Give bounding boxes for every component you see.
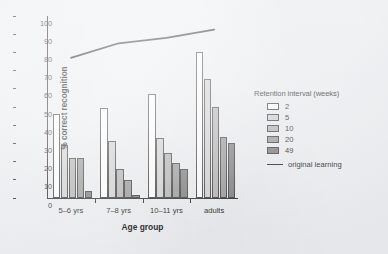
legend-title: Retention interval (weeks) bbox=[254, 89, 386, 98]
original-learning-line bbox=[47, 16, 238, 199]
legend-item: 20 bbox=[254, 134, 386, 145]
legend-item: 5 bbox=[254, 112, 386, 123]
y-axis-tick-mark bbox=[13, 161, 16, 162]
x-axis-title: Age group bbox=[47, 222, 238, 232]
chart-legend: Retention interval (weeks) 25102049 orig… bbox=[254, 89, 386, 170]
plot-area: 0102030405060708090100 5–6 yrs7–8 yrs10–… bbox=[47, 16, 237, 199]
y-axis-tick-mark bbox=[13, 70, 16, 71]
y-axis-tick-mark bbox=[13, 198, 16, 199]
legend-swatch-icon bbox=[267, 147, 279, 154]
x-axis-category-label: 10–11 yrs bbox=[150, 206, 183, 215]
legend-item: 10 bbox=[254, 123, 386, 134]
legend-swatch-icon bbox=[267, 125, 279, 132]
x-axis-tick-mark bbox=[190, 199, 191, 203]
y-axis-tick-mark bbox=[13, 179, 16, 180]
x-axis-tick-mark bbox=[143, 199, 144, 203]
legend-item-label: 10 bbox=[285, 124, 293, 133]
legend-item: 49 bbox=[254, 145, 386, 156]
x-axis-category-label: adults bbox=[204, 206, 224, 215]
legend-item-original-learning: original learning bbox=[254, 159, 386, 170]
legend-item-label: 20 bbox=[285, 135, 293, 144]
legend-swatch-icon bbox=[267, 136, 279, 143]
legend-item-label: 2 bbox=[285, 102, 289, 111]
y-axis-tick-mark bbox=[13, 52, 16, 53]
y-axis-tick-mark bbox=[13, 88, 16, 89]
x-axis-category-label: 7–8 yrs bbox=[106, 206, 131, 215]
legend-item: 2 bbox=[254, 101, 386, 112]
y-axis-tick-mark bbox=[13, 107, 16, 108]
y-axis-tick-mark bbox=[13, 125, 16, 126]
line-swatch-icon bbox=[267, 164, 283, 165]
chart-figure: 0102030405060708090100 5–6 yrs7–8 yrs10–… bbox=[0, 0, 388, 254]
x-axis-tick-mark bbox=[95, 199, 96, 203]
legend-swatch-icon bbox=[267, 103, 279, 110]
y-axis-tick-mark bbox=[13, 34, 16, 35]
legend-swatch-icon bbox=[267, 114, 279, 121]
legend-item-label: 5 bbox=[285, 113, 289, 122]
x-axis-category-label: 5–6 yrs bbox=[58, 206, 83, 215]
legend-item-label: original learning bbox=[288, 160, 342, 169]
legend-item-label: 49 bbox=[285, 146, 293, 155]
y-axis-tick-mark bbox=[13, 143, 16, 144]
legend-items: 25102049 bbox=[254, 101, 386, 156]
y-axis-tick-mark bbox=[13, 16, 16, 17]
y-axis-title: % correct recognition bbox=[60, 66, 69, 149]
